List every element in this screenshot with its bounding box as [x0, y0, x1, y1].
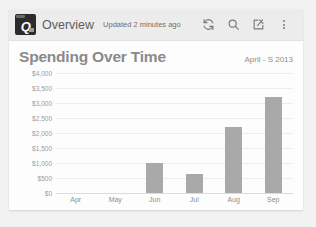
y-axis-tick-label: $500 — [38, 175, 52, 182]
x-axis-labels: AprMayJunJulAugSep — [56, 193, 293, 203]
bar-column[interactable] — [254, 73, 293, 193]
y-axis-tick-label: $2,500 — [32, 115, 52, 122]
quicken-logo-icon: Q — [15, 14, 36, 35]
y-axis-tick-label: $2,000 — [32, 130, 52, 137]
overview-card: Q Overview Updated 2 minutes ago — [9, 9, 303, 210]
app-header-bar: Q Overview Updated 2 minutes ago — [9, 9, 303, 41]
chart-bar[interactable] — [265, 97, 282, 193]
search-icon[interactable] — [221, 14, 246, 36]
logo-tab-shape — [16, 15, 25, 18]
bar-column[interactable] — [56, 73, 95, 193]
x-axis-tick-label: Sep — [254, 196, 293, 203]
y-axis-tick-label: $4,000 — [32, 70, 52, 77]
header-actions — [196, 14, 296, 36]
sync-icon[interactable] — [196, 14, 221, 36]
chart-title-row: Spending Over Time April - S 2013 — [19, 48, 293, 66]
chart-bar[interactable] — [225, 127, 242, 193]
y-axis-labels: $4,000$3,500$3,000$2,500$2,000$1,500$1,0… — [19, 73, 55, 193]
menu-dot — [283, 20, 285, 22]
x-axis-tick-label: Jul — [175, 196, 214, 203]
y-axis-tick-label: $1,000 — [32, 160, 52, 167]
bar-column[interactable] — [135, 73, 174, 193]
updated-status-text: Updated 2 minutes ago — [103, 20, 181, 29]
x-axis-tick-label: Apr — [56, 196, 95, 203]
menu-dot — [283, 27, 285, 29]
y-axis-tick-label: $1,500 — [32, 145, 52, 152]
page-title: Overview — [42, 18, 94, 32]
chart-bar[interactable] — [186, 174, 203, 194]
spending-chart-section: Spending Over Time April - S 2013 $4,000… — [9, 41, 303, 193]
y-axis-tick-label: $0 — [45, 190, 52, 197]
chart-date-range: April - S 2013 — [245, 55, 293, 64]
logo-dots-shape — [29, 28, 34, 32]
bar-column[interactable] — [96, 73, 135, 193]
y-axis-tick-label: $3,500 — [32, 85, 52, 92]
x-axis-tick-label: Jun — [135, 196, 174, 203]
chart-bar[interactable] — [146, 163, 163, 193]
chart-title: Spending Over Time — [19, 48, 166, 66]
bar-column[interactable] — [175, 73, 214, 193]
compose-icon[interactable] — [246, 14, 271, 36]
overflow-menu-icon[interactable] — [271, 14, 296, 36]
chart-plot-area: $4,000$3,500$3,000$2,500$2,000$1,500$1,0… — [19, 73, 293, 193]
chart-bars — [56, 73, 293, 193]
x-axis-tick-label: May — [96, 196, 135, 203]
y-axis-tick-label: $3,000 — [32, 100, 52, 107]
bar-column[interactable] — [214, 73, 253, 193]
x-axis-tick-label: Aug — [214, 196, 253, 203]
menu-dot — [283, 24, 285, 26]
